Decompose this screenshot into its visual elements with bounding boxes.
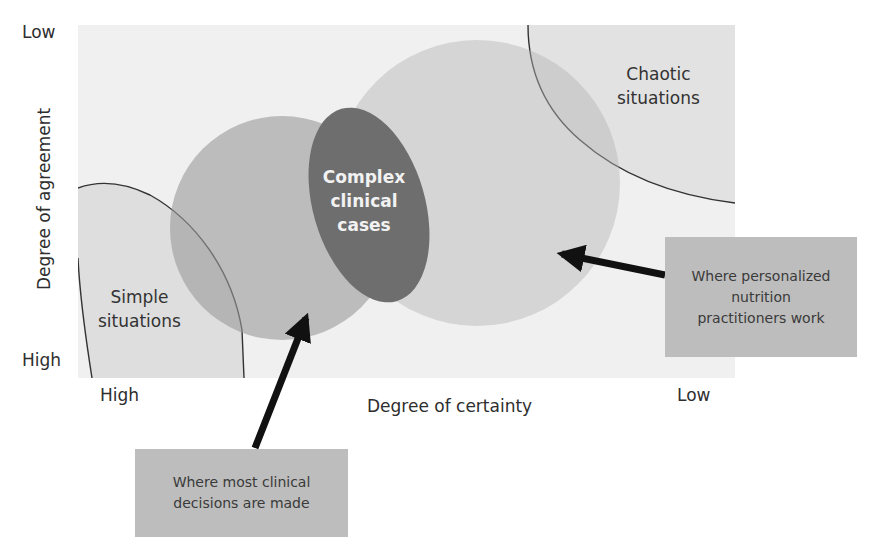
- y-axis-bottom-label: High: [22, 350, 61, 370]
- simple-line-1: Simple: [98, 285, 181, 309]
- callout-clinical-line-1: Where most clinical: [173, 472, 311, 493]
- x-axis-title: Degree of certainty: [367, 396, 532, 416]
- x-axis-left-label: High: [100, 385, 139, 405]
- x-axis-right-label: Low: [677, 385, 710, 405]
- complex-line-2: clinical: [312, 189, 416, 213]
- callout-personalized-nutrition: Where personalized nutrition practitione…: [665, 237, 857, 357]
- complex-line-1: Complex: [312, 165, 416, 189]
- simple-line-2: situations: [98, 309, 181, 333]
- complex-line-3: cases: [312, 213, 416, 237]
- chaotic-line-2: situations: [617, 86, 700, 110]
- callout-nutrition-line-2: nutrition: [691, 287, 830, 308]
- callout-nutrition-line-3: practitioners work: [691, 308, 830, 329]
- simple-situations-label: Simple situations: [98, 285, 181, 333]
- callout-clinical-line-2: decisions are made: [173, 493, 311, 514]
- y-axis-title: Degree of agreement: [34, 108, 54, 290]
- callout-clinical-decisions: Where most clinical decisions are made: [135, 449, 348, 537]
- chaotic-situations-label: Chaotic situations: [617, 62, 700, 110]
- y-axis-top-label: Low: [22, 22, 55, 42]
- chaotic-line-1: Chaotic: [617, 62, 700, 86]
- complex-clinical-cases-label: Complex clinical cases: [312, 165, 416, 237]
- callout-nutrition-line-1: Where personalized: [691, 266, 830, 287]
